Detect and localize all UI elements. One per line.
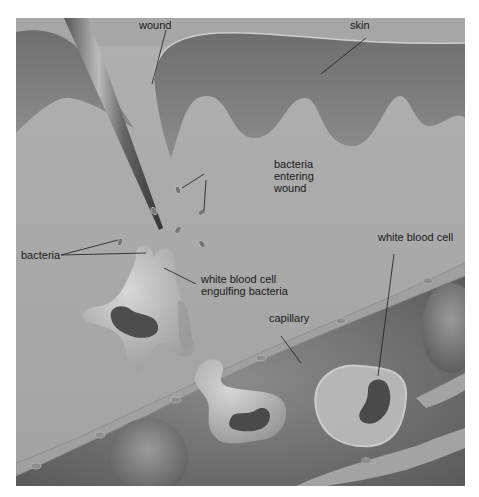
endothelial-nucleus xyxy=(361,457,371,463)
label-skin: skin xyxy=(350,19,370,31)
label-bacteria-entering-line2: entering xyxy=(274,170,314,182)
label-bacteria-entering-line3: wound xyxy=(274,182,306,194)
wound-infection-illustration: wound skin bacteria entering wound bacte… xyxy=(16,18,465,486)
illustration-svg xyxy=(16,18,465,486)
label-wbc-engulfing-line2: engulfing bacteria xyxy=(201,285,288,297)
label-bacteria-entering-line1: bacteria xyxy=(274,158,313,170)
label-wbc-engulfing-line1: white blood cell xyxy=(201,273,276,285)
label-capillary: capillary xyxy=(269,312,309,324)
white-blood-cell xyxy=(315,366,406,447)
label-bacteria: bacteria xyxy=(21,249,60,261)
label-white-blood-cell: white blood cell xyxy=(378,231,453,243)
label-wound: wound xyxy=(139,19,171,31)
